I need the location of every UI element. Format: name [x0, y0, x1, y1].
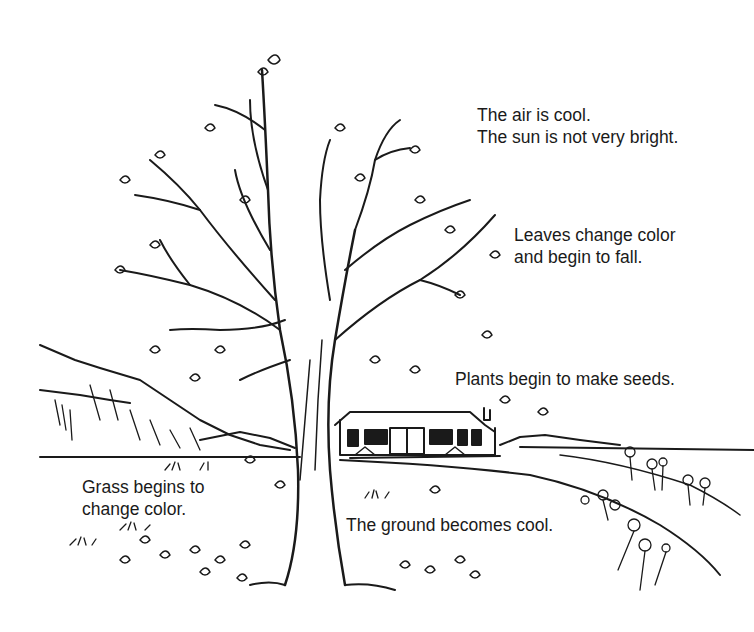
- horizon-line: [40, 447, 754, 458]
- label-air-line2: The sun is not very bright.: [477, 126, 678, 148]
- label-leaves-line2: and begin to fall.: [514, 246, 676, 268]
- label-leaves: Leaves change color and begin to fall.: [514, 224, 676, 268]
- label-air: The air is cool. The sun is not very bri…: [477, 104, 678, 148]
- flowers: [581, 447, 710, 590]
- label-plants: Plants begin to make seeds.: [455, 368, 675, 390]
- label-grass-line1: Grass begins to: [82, 476, 205, 498]
- label-ground-line1: The ground becomes cool.: [346, 514, 553, 536]
- label-plants-line1: Plants begin to make seeds.: [455, 368, 675, 390]
- label-leaves-line1: Leaves change color: [514, 224, 676, 246]
- label-grass-line2: change color.: [82, 498, 205, 520]
- label-grass: Grass begins to change color.: [82, 476, 205, 520]
- house: [335, 408, 495, 455]
- label-air-line1: The air is cool.: [477, 104, 678, 126]
- autumn-scene: The air is cool. The sun is not very bri…: [0, 0, 754, 632]
- label-ground: The ground becomes cool.: [346, 514, 553, 536]
- illustration: [0, 0, 754, 632]
